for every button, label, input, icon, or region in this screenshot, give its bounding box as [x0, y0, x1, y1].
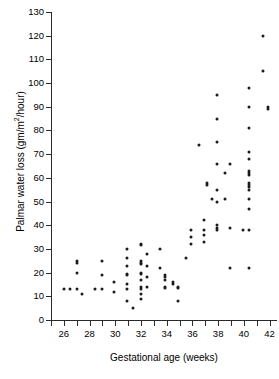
data-point — [113, 281, 116, 284]
x-axis-tick-label: 26 — [59, 329, 70, 339]
y-axis-tick-label: 30 — [33, 244, 44, 254]
data-point — [248, 266, 251, 269]
y-axis-tick-label: 40 — [33, 220, 44, 230]
x-axis-tick — [102, 321, 103, 326]
x-axis-tick — [141, 321, 142, 326]
y-axis-tick — [46, 202, 51, 203]
x-axis-tick — [192, 321, 193, 326]
data-point — [125, 273, 128, 276]
data-point — [69, 288, 72, 291]
data-point — [223, 172, 226, 175]
data-point — [262, 70, 265, 73]
data-point — [203, 240, 206, 243]
data-point — [190, 236, 193, 239]
data-point — [215, 141, 218, 144]
data-point — [203, 219, 206, 222]
x-axis-tick — [270, 321, 271, 326]
data-point — [75, 288, 78, 291]
x-axis-tick — [90, 321, 91, 326]
data-point — [215, 93, 218, 96]
y-axis-tick-label: 20 — [33, 268, 44, 278]
y-axis-tick-label: 130 — [28, 7, 44, 17]
y-axis-tick-label: 70 — [33, 149, 44, 159]
data-point — [164, 278, 167, 281]
x-axis-tick — [77, 321, 78, 326]
data-point — [140, 272, 143, 275]
data-point — [248, 127, 251, 130]
data-point — [248, 228, 251, 231]
x-axis-label: Gestational age (weeks) — [51, 352, 277, 363]
data-point — [172, 283, 175, 286]
data-point — [159, 266, 162, 269]
data-point — [140, 292, 143, 295]
data-point — [215, 162, 218, 165]
data-point — [215, 200, 218, 203]
y-axis-tick-label: 120 — [28, 31, 44, 41]
data-point — [223, 198, 226, 201]
data-point — [203, 233, 206, 236]
x-axis-tick — [244, 321, 245, 326]
data-point — [262, 34, 265, 37]
x-axis-tick-label: 40 — [239, 329, 250, 339]
y-axis-tick — [46, 296, 51, 297]
data-point — [203, 228, 206, 231]
data-point — [125, 247, 128, 250]
y-axis-tick — [46, 178, 51, 179]
data-point — [101, 273, 104, 276]
data-point — [248, 150, 251, 153]
plot-area: 0102030405060708090100110120130 — [51, 12, 276, 320]
data-point — [140, 263, 143, 266]
data-point — [125, 264, 128, 267]
y-axis-tick — [46, 59, 51, 60]
data-point — [101, 288, 104, 291]
y-axis-label-tail: /hour) — [15, 91, 26, 117]
data-point — [248, 105, 251, 108]
data-point — [190, 243, 193, 246]
x-axis-tick — [115, 321, 116, 326]
data-point — [205, 183, 208, 186]
x-axis-tick-label: 42 — [264, 329, 275, 339]
data-point — [241, 228, 244, 231]
y-axis-tick-label: 100 — [28, 78, 44, 88]
y-axis-tick — [46, 273, 51, 274]
data-point — [210, 198, 213, 201]
y-axis-tick — [46, 12, 51, 13]
y-axis-tick — [46, 154, 51, 155]
data-point — [215, 228, 218, 231]
data-point — [75, 262, 78, 265]
data-point — [248, 207, 251, 210]
data-point — [228, 266, 231, 269]
data-point — [125, 257, 128, 260]
data-point — [228, 226, 231, 229]
x-axis-tick-label: 36 — [187, 329, 198, 339]
data-point — [177, 300, 180, 303]
y-axis-tick — [46, 107, 51, 108]
x-axis-tick — [180, 321, 181, 326]
y-axis-tick-label: 90 — [33, 102, 44, 112]
data-point — [125, 288, 128, 291]
data-point — [185, 257, 188, 260]
data-point — [146, 276, 149, 279]
data-point — [80, 292, 83, 295]
x-axis-tick-label: 34 — [161, 329, 172, 339]
x-axis-tick-label: 28 — [84, 329, 95, 339]
x-axis-tick — [205, 321, 206, 326]
x-axis-tick — [128, 321, 129, 326]
x-axis-tick — [218, 321, 219, 326]
x-axis-tick — [167, 321, 168, 326]
y-axis-tick-label: 0 — [39, 315, 44, 325]
y-axis-tick-label: 50 — [33, 197, 44, 207]
data-point — [140, 288, 143, 291]
x-axis-tick — [64, 321, 65, 326]
data-point — [140, 278, 143, 281]
data-point — [248, 86, 251, 89]
y-axis-tick-label: 10 — [33, 292, 44, 302]
data-point — [197, 143, 200, 146]
data-point — [248, 188, 251, 191]
x-axis-tick — [154, 321, 155, 326]
y-axis-tick-label: 110 — [29, 55, 44, 65]
data-point — [267, 108, 270, 111]
data-point — [113, 290, 116, 293]
y-axis-tick — [46, 225, 51, 226]
data-point — [164, 287, 167, 290]
